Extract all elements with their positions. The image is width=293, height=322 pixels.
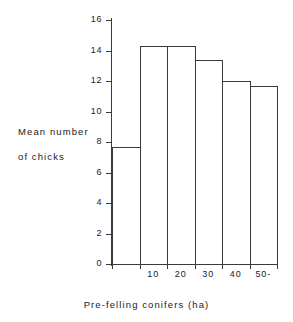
y-tick-label: 14 [76, 46, 102, 55]
y-tick-mark [106, 51, 112, 52]
bar [195, 60, 224, 265]
x-axis-title: Pre-felling conifers (ha) [0, 300, 293, 310]
y-tick-label: 0 [76, 259, 102, 268]
x-tick-label: 50- [243, 270, 283, 279]
y-tick-mark [106, 142, 112, 143]
x-tick-mark [140, 264, 141, 269]
bar [140, 46, 169, 265]
y-axis-title-line1: Mean number [18, 127, 89, 137]
y-tick-label: 2 [76, 229, 102, 238]
y-tick-label: 12 [76, 76, 102, 85]
bar-chart-figure: 0246810121416 1020304050- Mean number of… [0, 0, 293, 322]
y-tick-mark [106, 20, 112, 21]
y-tick-label: 16 [76, 15, 102, 24]
y-tick-label: 8 [76, 137, 102, 146]
y-tick-mark [106, 81, 112, 82]
y-axis-title-line2: of chicks [18, 152, 65, 162]
y-tick-label: 4 [76, 198, 102, 207]
x-tick-mark [112, 264, 113, 269]
bar [167, 46, 196, 265]
y-tick-label: 10 [76, 107, 102, 116]
bar [222, 81, 251, 265]
x-tick-mark [222, 264, 223, 269]
x-tick-mark [167, 264, 168, 269]
bar [250, 86, 279, 265]
y-tick-label: 6 [76, 168, 102, 177]
bar [112, 147, 141, 265]
x-tick-mark [250, 264, 251, 269]
x-tick-mark [195, 264, 196, 269]
y-tick-mark [106, 112, 112, 113]
x-tick-mark [277, 264, 278, 269]
